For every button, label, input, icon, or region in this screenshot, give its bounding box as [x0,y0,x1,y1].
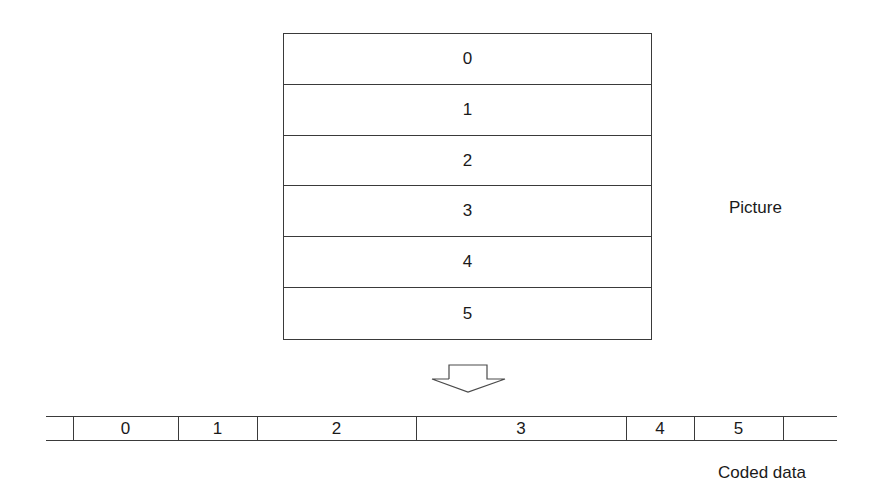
picture-block: 0 1 2 3 4 5 [283,33,652,340]
coded-segment-0: 0 [73,416,178,441]
coded-segment-1: 1 [178,416,257,441]
coded-segment-2: 2 [257,416,416,441]
coded-segment-4: 4 [626,416,694,441]
hollow-down-arrow-icon [430,362,510,396]
picture-row-0: 0 [284,34,651,85]
coded-data-label: Coded data [718,463,806,483]
coded-data-strip: 0 1 2 3 4 5 [46,416,837,441]
picture-label: Picture [729,198,782,218]
picture-row-5: 5 [284,288,651,339]
picture-row-2: 2 [284,136,651,187]
picture-row-3: 3 [284,186,651,237]
coded-segment-3: 3 [416,416,626,441]
picture-row-1: 1 [284,85,651,136]
coded-segment-5: 5 [694,416,783,441]
segment-divider [783,416,784,441]
picture-row-4: 4 [284,237,651,288]
